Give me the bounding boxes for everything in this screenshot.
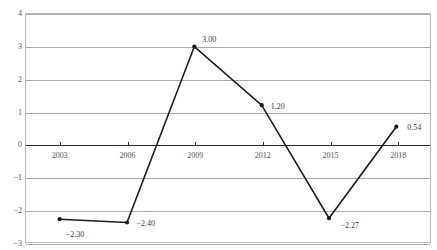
data-point-marker bbox=[260, 103, 264, 107]
x-axis-tick-label: 2018 bbox=[390, 152, 406, 160]
y-axis-tick-label: 0 bbox=[18, 141, 22, 149]
data-point-value-label: 1.20 bbox=[271, 103, 285, 111]
data-point-marker bbox=[327, 216, 331, 220]
y-axis-tick-label: 2 bbox=[18, 76, 22, 84]
x-axis-tick-label: 2006 bbox=[120, 152, 136, 160]
data-point-marker bbox=[394, 125, 398, 129]
y-axis-tick-label: −2 bbox=[13, 207, 22, 215]
data-point-marker bbox=[192, 44, 196, 48]
plot-area: 43210−1−2−3 −2.30−2.403.001.20−2.270.54 … bbox=[25, 13, 431, 243]
x-axis-tick-label: 2015 bbox=[323, 152, 339, 160]
gridline: −3 bbox=[26, 244, 430, 245]
x-axis-tick-label: 2009 bbox=[187, 152, 203, 160]
y-axis-tick-label: −1 bbox=[13, 174, 22, 182]
data-point-marker bbox=[125, 220, 129, 224]
y-axis-tick-label: 4 bbox=[18, 10, 22, 18]
series-line bbox=[60, 47, 397, 223]
x-axis-tick-label: 2003 bbox=[52, 152, 68, 160]
data-point-value-label: −2.27 bbox=[341, 222, 360, 230]
data-point-value-label: 0.54 bbox=[407, 124, 421, 132]
chart-title-cropped bbox=[0, 0, 437, 7]
data-point-value-label: 3.00 bbox=[202, 36, 216, 44]
x-axis-tick-label: 2012 bbox=[255, 152, 271, 160]
y-axis-tick-label: −3 bbox=[13, 240, 22, 248]
chart-canvas: 43210−1−2−3 −2.30−2.403.001.20−2.270.54 … bbox=[0, 0, 437, 250]
data-point-value-label: −2.30 bbox=[66, 231, 85, 239]
y-axis-tick-label: 3 bbox=[18, 43, 22, 51]
y-axis-tick-label: 1 bbox=[18, 109, 22, 117]
data-point-value-label: −2.40 bbox=[137, 220, 156, 228]
data-point-marker bbox=[58, 217, 62, 221]
data-series-layer bbox=[26, 14, 430, 242]
